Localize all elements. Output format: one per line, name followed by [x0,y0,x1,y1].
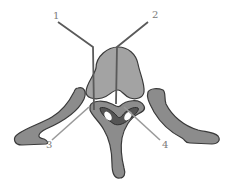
label-3: 3 [46,140,52,150]
label-2: 2 [152,10,158,20]
label-4: 4 [162,140,168,150]
vertebra-diagram [0,0,232,181]
right-transverse-process [147,89,219,144]
vertebral-body [86,47,144,99]
left-transverse-process [15,88,86,145]
label-1: 1 [53,11,59,21]
